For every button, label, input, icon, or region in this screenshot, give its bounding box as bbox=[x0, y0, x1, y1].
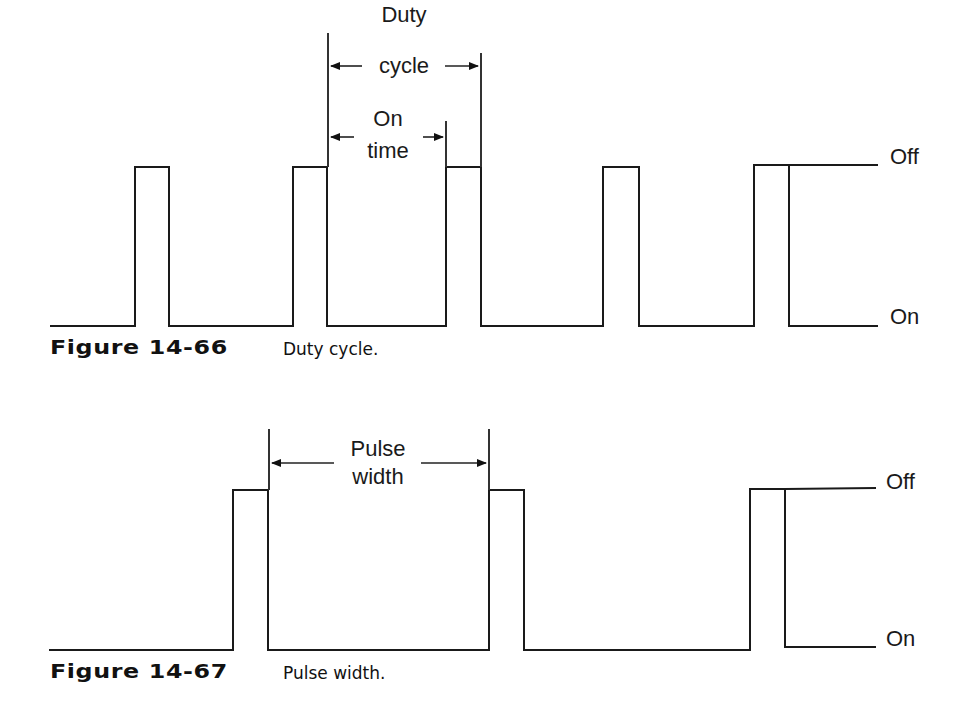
duty-cycle-figure: Duty cycle On time Off On bbox=[50, 2, 920, 329]
figure-14-66-number: Figure 14-66 bbox=[50, 336, 228, 358]
figure-14-66-caption: Duty cycle. bbox=[283, 339, 378, 359]
on-time-label-2: time bbox=[367, 138, 409, 163]
on-level-label: On bbox=[886, 626, 915, 651]
duty-cycle-label-2: cycle bbox=[379, 53, 429, 78]
pulse-width-figure: Pulse width Off On bbox=[49, 429, 916, 651]
off-level-line bbox=[785, 488, 876, 489]
on-time-label-1: On bbox=[373, 106, 402, 131]
on-level-label: On bbox=[890, 304, 919, 329]
duty-cycle-label-1: Duty bbox=[381, 2, 426, 27]
off-level-label: Off bbox=[886, 469, 916, 494]
figure-14-67-caption: Pulse width. bbox=[283, 663, 385, 683]
off-level-label: Off bbox=[890, 144, 920, 169]
pulse-width-waveform bbox=[49, 489, 876, 650]
figure-14-67-number: Figure 14-67 bbox=[50, 660, 228, 682]
pulse-width-label-2: width bbox=[351, 464, 403, 489]
duty-cycle-waveform bbox=[50, 165, 878, 326]
pulse-width-label-1: Pulse bbox=[350, 436, 405, 461]
